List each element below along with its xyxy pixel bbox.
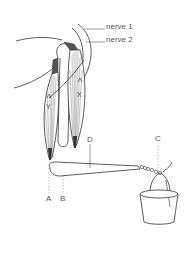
upper-arm-outline — [16, 37, 62, 41]
diagram-drawing — [0, 0, 191, 254]
arm-muscle-diagram: nerve 1 nerve 2 X Y D C A B — [0, 0, 191, 254]
nerve-1-label: nerve 1 — [106, 22, 133, 31]
forearm-lever — [49, 162, 140, 176]
muscle-y-label: Y — [46, 102, 51, 111]
point-c-label: C — [155, 134, 161, 143]
point-a-label: A — [46, 194, 51, 203]
bucket-rim — [140, 190, 178, 198]
bucket-handle — [150, 173, 170, 192]
muscle-x-label: X — [77, 90, 82, 99]
hook — [163, 162, 172, 172]
point-b-label: B — [60, 194, 65, 203]
bucket-body — [140, 194, 178, 224]
muscle-x-bottom-tendon — [73, 136, 77, 148]
nerve-2-label: nerve 2 — [106, 35, 133, 44]
muscle-x-top-tendon — [64, 42, 78, 50]
muscle-y-top-tendon — [52, 58, 58, 74]
point-d-label: D — [87, 135, 93, 144]
